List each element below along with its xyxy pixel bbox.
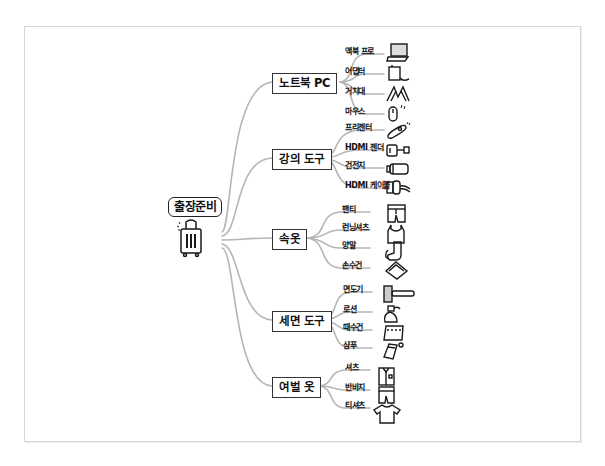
laptop-stand-icon (385, 83, 411, 105)
branch-spare-clothes: 여벌 옷 (272, 377, 321, 398)
leaf-shampoo: 샴푸 (343, 341, 356, 351)
leaf-undershirt: 런닝셔츠 (342, 223, 368, 233)
laptop-icon (385, 42, 411, 64)
t-shirt-icon (372, 403, 402, 425)
leaf-shorts: 반바지 (345, 383, 365, 393)
branch-laptop-pc: 노트북 PC (272, 73, 337, 94)
leaf-adapter: 어댑터 (345, 67, 365, 77)
presenter-remote-icon (385, 120, 411, 142)
leaf-scrub-towel: 때수건 (343, 323, 363, 333)
branch-lecture-tools: 강의 도구 (272, 149, 332, 170)
underwear-icon (384, 203, 410, 225)
power-adapter-icon (385, 63, 411, 85)
shirt-icon (374, 365, 400, 387)
leaf-razor: 면도기 (343, 285, 363, 295)
leaf-socks: 양말 (342, 241, 355, 251)
leaf-hdmi-cable: HDMI 케이블 (345, 181, 390, 191)
leaf-handkerchief: 손수건 (342, 261, 362, 271)
branch-underwear: 속옷 (272, 229, 307, 250)
suitcase-icon (176, 217, 206, 259)
branch-toiletries: 세면 도구 (272, 311, 332, 332)
leaf-macbook-pro: 액북 프로 (345, 47, 374, 57)
leaf-lotion: 로션 (343, 305, 356, 315)
leaf-battery: 건전지 (345, 161, 365, 171)
leaf-hdmi-gender: HDMI 젠더 (345, 143, 383, 153)
leaf-presenter: 프리젠터 (345, 123, 371, 133)
root-node-label: 출장준비 (168, 197, 222, 217)
shampoo-pouch-icon (381, 339, 407, 361)
leaf-stand: 거치대 (345, 87, 365, 97)
leaf-mouse: 마우스 (345, 107, 365, 117)
handkerchief-icon (384, 259, 410, 281)
leaf-briefs: 팬티 (342, 205, 355, 215)
hdmi-cable-icon (385, 177, 411, 199)
leaf-t-shirt: 티셔츠 (345, 401, 365, 411)
leaf-shirt: 셔츠 (345, 363, 358, 373)
